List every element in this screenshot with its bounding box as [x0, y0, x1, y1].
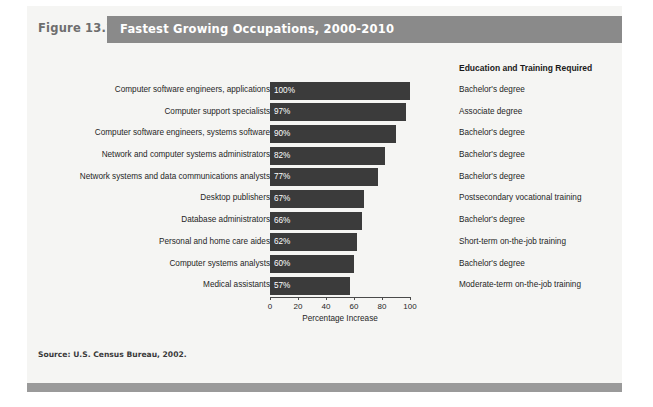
- occupation-label: Medical assistants: [203, 280, 270, 289]
- figure-number-label: Figure 13.1: [38, 21, 114, 35]
- axis-tick-label: 80: [378, 302, 387, 311]
- bar-track: 97%: [270, 103, 410, 121]
- occupation-label: Computer software engineers, systems sof…: [95, 128, 270, 137]
- chart-row: Network and computer systems administrat…: [27, 145, 622, 167]
- education-requirement: Associate degree: [459, 107, 522, 116]
- bar-value-label: 82%: [274, 151, 290, 160]
- education-requirement: Bachelor's degree: [459, 128, 525, 137]
- axis-tick: [354, 297, 355, 300]
- chart-row: Computer software engineers, application…: [27, 80, 622, 102]
- bar: 90%: [270, 125, 396, 143]
- education-requirement: Moderate-term on-the-job training: [459, 280, 581, 289]
- figure-title: Fastest Growing Occupations, 2000-2010: [120, 22, 394, 36]
- bar: 100%: [270, 82, 410, 100]
- occupation-label: Database administrators: [181, 215, 270, 224]
- occupation-label: Computer systems analysts: [169, 259, 270, 268]
- bar-track: 77%: [270, 168, 410, 186]
- education-requirement: Bachelor's degree: [459, 172, 525, 181]
- education-column-header: Education and Training Required: [459, 63, 592, 73]
- education-requirement: Bachelor's degree: [459, 150, 525, 159]
- bar: 60%: [270, 255, 354, 273]
- chart-row: Computer support specialists97%Associate…: [27, 102, 622, 124]
- bar: 67%: [270, 190, 364, 208]
- axis-tick: [270, 297, 271, 300]
- occupation-label: Desktop publishers: [200, 193, 270, 202]
- figure-header: Figure 13.1 Fastest Growing Occupations,…: [27, 16, 622, 43]
- chart-row: Personal and home care aides62%Short-ter…: [27, 232, 622, 254]
- occupation-label: Personal and home care aides: [159, 237, 270, 246]
- bar-track: 57%: [270, 277, 410, 295]
- bar-track: 100%: [270, 82, 410, 100]
- bar: 62%: [270, 233, 357, 251]
- footer-rule: [27, 383, 622, 392]
- bar-track: 66%: [270, 212, 410, 230]
- figure-container: Figure 13.1 Fastest Growing Occupations,…: [0, 0, 653, 407]
- bar-track: 67%: [270, 190, 410, 208]
- education-requirement: Bachelor's degree: [459, 259, 525, 268]
- bar-rows: Computer software engineers, application…: [27, 80, 622, 297]
- source-note: Source: U.S. Census Bureau, 2002.: [38, 350, 187, 359]
- x-axis: Percentage Increase 020406080100: [270, 297, 410, 337]
- bar: 97%: [270, 103, 406, 121]
- bar-value-label: 90%: [274, 129, 290, 138]
- bar-value-label: 57%: [274, 281, 290, 290]
- bar: 66%: [270, 212, 362, 230]
- axis-tick: [410, 297, 411, 300]
- chart-row: Computer systems analysts60%Bachelor's d…: [27, 254, 622, 276]
- axis-tick-label: 40: [322, 302, 331, 311]
- axis-tick-label: 0: [268, 302, 272, 311]
- x-axis-title: Percentage Increase: [270, 314, 410, 323]
- education-requirement: Bachelor's degree: [459, 215, 525, 224]
- axis-tick: [382, 297, 383, 300]
- axis-tick-label: 20: [294, 302, 303, 311]
- chart-row: Database administrators66%Bachelor's deg…: [27, 210, 622, 232]
- bar: 57%: [270, 277, 350, 295]
- bar-value-label: 100%: [274, 86, 295, 95]
- chart-row: Network systems and data communications …: [27, 167, 622, 189]
- bar: 82%: [270, 147, 385, 165]
- chart-row: Medical assistants57%Moderate-term on-th…: [27, 275, 622, 297]
- figure-title-bar: Fastest Growing Occupations, 2000-2010: [107, 16, 622, 43]
- axis-tick: [326, 297, 327, 300]
- education-requirement: Postsecondary vocational training: [459, 193, 581, 202]
- occupation-label: Network systems and data communications …: [80, 172, 270, 181]
- education-requirement: Bachelor's degree: [459, 85, 525, 94]
- bar-value-label: 66%: [274, 216, 290, 225]
- axis-tick-label: 100: [403, 302, 416, 311]
- bar-track: 60%: [270, 255, 410, 273]
- bar-track: 90%: [270, 125, 410, 143]
- bar-value-label: 67%: [274, 194, 290, 203]
- bar-track: 82%: [270, 147, 410, 165]
- axis-line: [270, 297, 410, 298]
- bar-value-label: 97%: [274, 107, 290, 116]
- chart-row: Desktop publishers67%Postsecondary vocat…: [27, 188, 622, 210]
- bar-value-label: 60%: [274, 259, 290, 268]
- bar-track: 62%: [270, 233, 410, 251]
- bar-value-label: 62%: [274, 237, 290, 246]
- chart-row: Computer software engineers, systems sof…: [27, 123, 622, 145]
- occupation-label: Computer software engineers, application…: [115, 85, 270, 94]
- occupation-label: Computer support specialists: [164, 107, 270, 116]
- axis-tick: [298, 297, 299, 300]
- bar-value-label: 77%: [274, 172, 290, 181]
- education-requirement: Short-term on-the-job training: [459, 237, 566, 246]
- occupation-label: Network and computer systems administrat…: [102, 150, 270, 159]
- bar: 77%: [270, 168, 378, 186]
- chart-area: Education and Training Required Computer…: [27, 55, 622, 345]
- axis-tick-label: 60: [350, 302, 359, 311]
